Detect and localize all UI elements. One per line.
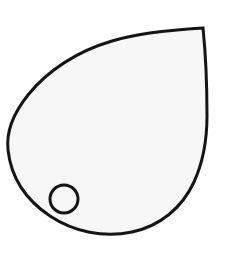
teardrop-figure [0,0,229,265]
drawing-canvas [0,0,229,265]
hole-circle [50,185,78,213]
